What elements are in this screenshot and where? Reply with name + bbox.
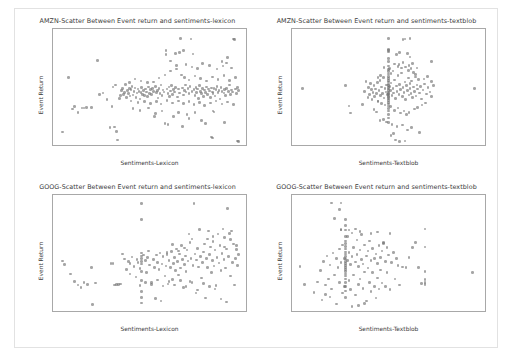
scatter-point	[203, 243, 206, 246]
scatter-point	[344, 285, 347, 288]
scatter-point	[344, 224, 347, 227]
scatter-point	[190, 38, 193, 41]
scatter-point	[199, 77, 202, 80]
scatter-point	[140, 270, 143, 273]
scatter-point	[326, 255, 329, 258]
scatter-point	[150, 283, 153, 286]
scatter-point	[73, 280, 76, 283]
scatter-point	[61, 260, 64, 263]
scatter-point	[118, 97, 121, 100]
scatter-point	[412, 86, 415, 89]
y-axis-label: Event Return	[38, 76, 44, 114]
scatter-point	[410, 80, 413, 83]
scatter-point	[415, 95, 418, 98]
scatter-point	[69, 273, 72, 276]
scatter-point	[154, 85, 157, 88]
scatter-point	[191, 66, 194, 69]
y-axis-label: Event Return	[38, 242, 44, 280]
scatter-point	[131, 256, 134, 259]
scatter-point	[159, 252, 162, 255]
scatter-point	[130, 100, 133, 103]
scatter-point	[85, 106, 88, 109]
scatter-point	[174, 52, 177, 55]
scatter-point	[228, 232, 231, 235]
scatter-point	[233, 38, 236, 41]
scatter-point	[188, 233, 191, 236]
scatter-point	[174, 269, 177, 272]
scatter-point	[370, 290, 373, 293]
scatter-point	[197, 266, 200, 269]
scatter-point	[213, 265, 216, 268]
scatter-point	[389, 89, 392, 92]
scatter-point	[228, 79, 231, 82]
scatter-point	[393, 63, 396, 66]
scatter-point	[419, 85, 422, 88]
scatter-point	[161, 94, 164, 97]
scatter-point	[316, 281, 319, 284]
scatter-point	[373, 108, 376, 111]
scatter-point	[398, 63, 401, 66]
scatter-point	[357, 304, 360, 307]
scatter-point	[202, 251, 205, 254]
scatter-point	[176, 260, 179, 263]
scatter-point	[398, 284, 401, 287]
scatter-point	[178, 92, 181, 95]
scatter-point	[373, 95, 376, 98]
scatter-point	[392, 132, 395, 135]
scatter-point	[422, 89, 425, 92]
scatter-point	[332, 252, 335, 255]
scatter-point	[189, 85, 192, 88]
scatter-point	[205, 80, 208, 83]
scatter-point	[206, 238, 209, 241]
scatter-point	[220, 86, 223, 89]
scatter-point	[408, 256, 411, 259]
scatter-point	[139, 98, 142, 101]
scatter-point	[411, 62, 414, 65]
scatter-point	[359, 249, 362, 252]
scatter-point	[349, 112, 352, 115]
scatter-point	[171, 243, 174, 246]
scatter-point	[405, 266, 408, 269]
scatter-point	[373, 285, 376, 288]
scatter-point	[313, 291, 316, 294]
scatter-point	[414, 73, 417, 76]
scatter-point	[351, 232, 354, 235]
scatter-point	[327, 278, 330, 281]
scatter-point	[169, 266, 172, 269]
scatter-point	[202, 95, 205, 98]
scatter-point	[351, 255, 354, 258]
scatter-point	[121, 87, 124, 90]
scatter-point	[173, 284, 176, 287]
scatter-point	[179, 279, 182, 282]
scatter-point	[185, 285, 188, 288]
scatter-point	[397, 74, 400, 77]
scatter-point	[426, 75, 429, 78]
scatter-point	[346, 259, 349, 262]
scatter-point	[188, 79, 191, 82]
scatter-point	[396, 125, 399, 128]
scatter-point	[203, 104, 206, 107]
scatter-point	[416, 88, 419, 91]
scatter-point	[219, 244, 222, 247]
scatter-point	[181, 258, 184, 261]
scatter-point	[167, 283, 170, 286]
plot-area: -0.15-0.10-0.050.000.050.100.150.20-0.75…	[52, 28, 247, 146]
scatter-point	[171, 278, 174, 281]
scatter-point	[129, 273, 132, 276]
scatter-point	[167, 123, 170, 126]
scatter-point	[209, 102, 212, 105]
scatter-point	[357, 265, 360, 268]
scatter-point	[188, 117, 191, 120]
scatter-point	[67, 76, 70, 79]
scatter-point	[387, 110, 390, 113]
scatter-point	[383, 66, 386, 69]
scatter-point	[125, 268, 128, 271]
scatter-point	[397, 107, 400, 110]
scatter-point	[188, 92, 191, 95]
scatter-point	[237, 89, 240, 92]
scatter-point	[225, 62, 228, 65]
scatter-point	[393, 109, 396, 112]
panel-amzn-lexicon: AMZN-Scatter Between Event return and se…	[18, 12, 257, 178]
scatter-point	[206, 266, 209, 269]
scatter-point	[217, 233, 220, 236]
